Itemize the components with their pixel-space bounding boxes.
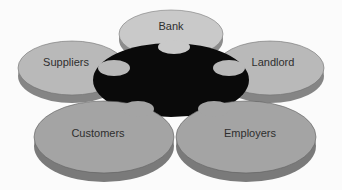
petal-label-landlord: Landlord	[252, 56, 295, 68]
petal-employers: Employers	[176, 101, 316, 182]
petal-label-customers: Customers	[71, 127, 125, 139]
petal-label-bank: Bank	[158, 20, 184, 32]
petal-customers: Customers	[34, 101, 174, 182]
petal-label-suppliers: Suppliers	[43, 56, 89, 68]
diagram-canvas: Bank Suppliers Landlord Customers	[0, 0, 342, 190]
stakeholder-puzzle-diagram: Bank Suppliers Landlord Customers	[0, 0, 342, 190]
petal-label-employers: Employers	[224, 127, 276, 139]
